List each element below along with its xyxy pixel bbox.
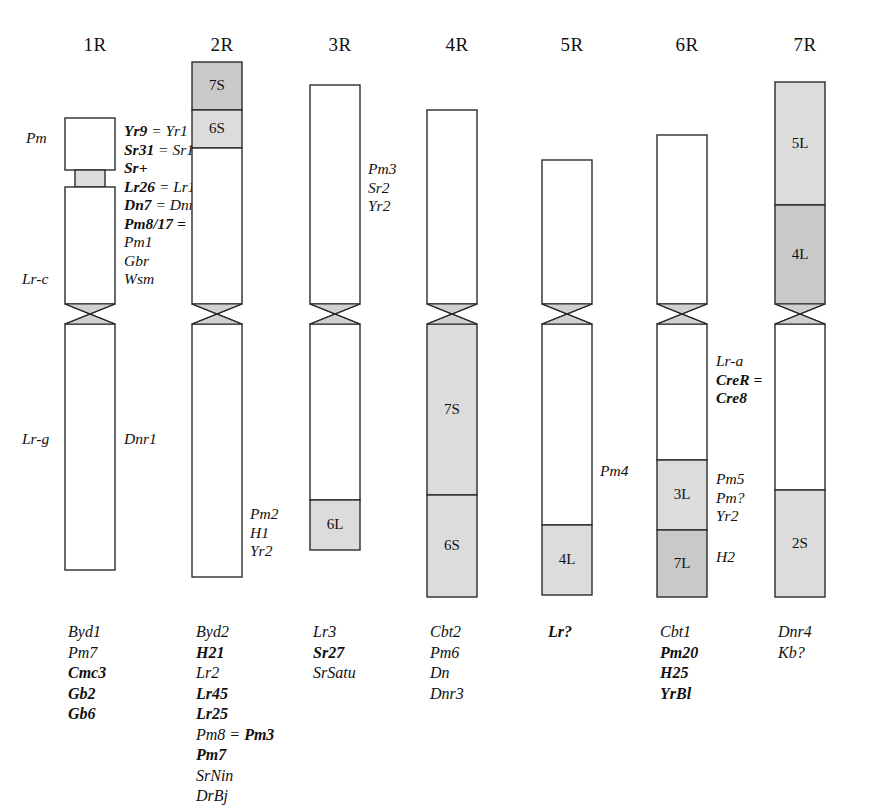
- band-label-5R-band-4L: 4L: [542, 551, 592, 568]
- bottom-gene-list-6R-line: Cbt1: [660, 622, 698, 643]
- gene-symbol: Dnr4: [778, 623, 812, 640]
- bottom-gene-list-1R-line: Pm7: [68, 643, 106, 664]
- bottom-gene-list-4R-line: Cbt2: [430, 622, 464, 643]
- gene-symbol: Cbt2: [430, 623, 461, 640]
- gene-symbol: H21: [196, 644, 224, 661]
- bottom-gene-list-4R: Cbt2Pm6DnDnr3: [430, 622, 464, 704]
- chromosome-segment-2R-long-arm: [192, 324, 242, 577]
- gene-symbol: Gb6: [68, 705, 96, 722]
- chromosome-segment-1R-long-arm: [65, 324, 115, 570]
- centromere-diagonal: [542, 304, 592, 324]
- bottom-gene-list-3R-line: Lr3: [313, 622, 356, 643]
- gene-symbol: Pm8/17: [124, 215, 173, 232]
- bottom-gene-list-6R-line: H25: [660, 663, 698, 684]
- gene-symbol: Dnr: [170, 196, 195, 213]
- centromere-upper-6R: [657, 304, 707, 314]
- gene-annotation-2R-4-line: Yr2: [250, 542, 278, 561]
- chromosome-segment-3R-short-arm: [310, 85, 360, 304]
- band-label-2R-band-6S: 6S: [192, 120, 242, 137]
- gene-annotation-1R-1: Yr9 = Yr1Sr31 = Sr1Sr+Lr26 = Lr1Dn7 = Dn…: [124, 122, 196, 289]
- band-label-6R-band-7L: 7L: [657, 555, 707, 572]
- chromosome-segment-6R-long-white: [657, 324, 707, 460]
- band-label-2R-band-7S: 7S: [192, 77, 242, 94]
- bottom-gene-list-7R-line: Kb?: [778, 643, 812, 664]
- chromosome-segment-2R-band-6S: [192, 110, 242, 148]
- gene-symbol: Pm20: [660, 644, 698, 661]
- centromere-diagonal: [65, 304, 115, 324]
- gene-symbol: Dn: [430, 664, 450, 681]
- chromosome-segment-1R-short-lower: [65, 187, 115, 304]
- band-label-7R-band-2S: 2S: [775, 535, 825, 552]
- band-label-3R-band-6L: 6L: [310, 516, 360, 533]
- chromosome-title-4R: 4R: [432, 34, 482, 56]
- gene-annotation-6R-3-line: H2: [716, 548, 735, 567]
- gene-symbol: Pm2: [250, 505, 278, 522]
- label-pm4: Pm4: [600, 462, 628, 480]
- gene-symbol: Pm7: [68, 644, 97, 661]
- chromosome-segment-1R-gray-band: [75, 170, 105, 187]
- gene-symbol: Sr+: [124, 159, 148, 176]
- centromere-upper-2R: [192, 304, 242, 314]
- gene-annotation-6R-2-line: Pm?: [716, 489, 744, 508]
- gene-symbol: Pm5: [716, 470, 744, 487]
- bottom-gene-list-1R: Byd1Pm7Cmc3Gb2Gb6: [68, 622, 106, 725]
- chromosome-ideogram-figure: 1RPmLr-cLr-gDnr1Yr9 = Yr1Sr31 = Sr1Sr+Lr…: [0, 0, 877, 811]
- gene-symbol: =: [173, 215, 186, 232]
- bottom-gene-list-2R-line: Lr25: [196, 704, 274, 725]
- gene-symbol: Sr31: [124, 141, 154, 158]
- bottom-gene-list-7R-line: Dnr4: [778, 622, 812, 643]
- centromere-diagonal: [775, 304, 825, 324]
- chromosome-segment-6R-band-7L: [657, 530, 707, 597]
- gene-annotation-2R-4-line: H1: [250, 524, 278, 543]
- centromere-diagonal: [192, 304, 242, 324]
- chromosome-segment-7R-long-white: [775, 324, 825, 490]
- centromere-diagonal: [65, 304, 115, 324]
- gene-symbol: Yr2: [250, 542, 272, 559]
- bottom-gene-list-3R-line: SrSatu: [313, 663, 356, 684]
- gene-symbol: YrBl: [660, 685, 691, 702]
- chromosome-segment-2R-short-white: [192, 148, 242, 304]
- gene-annotation-6R-2-line: Pm5: [716, 470, 744, 489]
- bottom-gene-list-4R-line: Dnr3: [430, 684, 464, 705]
- centromere-upper-1R: [65, 304, 115, 314]
- gene-annotation-1R-1-line: Yr9 = Yr1: [124, 122, 196, 141]
- gene-annotation-6R-3: H2: [716, 548, 735, 567]
- gene-annotation-3R-1-line: Yr2: [368, 197, 396, 216]
- centromere-lower-2R: [192, 314, 242, 324]
- gene-symbol: =: [147, 122, 165, 139]
- centromere-lower-5R: [542, 314, 592, 324]
- centromere-upper-4R: [427, 304, 477, 314]
- centromere-lower-1R: [65, 314, 115, 324]
- chromosome-title-7R: 7R: [780, 34, 830, 56]
- gene-symbol: H2: [716, 548, 735, 565]
- centromere-diagonal: [775, 304, 825, 324]
- chromosome-segment-3R-band-6L: [310, 500, 360, 550]
- chromosome-segment-4R-band-7S: [427, 324, 477, 495]
- chromosome-segment-7R-band-4L: [775, 205, 825, 304]
- gene-annotation-3R-1-line: Sr2: [368, 179, 396, 198]
- gene-symbol: =: [750, 371, 763, 388]
- chromosome-title-5R: 5R: [547, 34, 597, 56]
- band-label-4R-band-7S: 7S: [427, 401, 477, 418]
- gene-symbol: Dnr3: [430, 685, 464, 702]
- gene-symbol: H1: [250, 524, 269, 541]
- centromere-upper-5R: [542, 304, 592, 314]
- gene-symbol: SrNin: [196, 767, 233, 784]
- gene-symbol: Lr25: [196, 705, 228, 722]
- bottom-gene-list-2R-line: Lr45: [196, 684, 274, 705]
- chromosome-segment-5R-long-white: [542, 324, 592, 525]
- chromosome-segment-6R-band-3L: [657, 460, 707, 530]
- chromosome-segment-7R-band-2S: [775, 490, 825, 597]
- gene-symbol: Yr1: [165, 122, 187, 139]
- centromere-diagonal: [542, 304, 592, 324]
- gene-symbol: SrSatu: [313, 664, 356, 681]
- band-label-6R-band-3L: 3L: [657, 486, 707, 503]
- bottom-gene-list-3R-line: Sr27: [313, 643, 356, 664]
- centromere-upper-3R: [310, 304, 360, 314]
- gene-annotation-6R-1-line: Lr-a: [716, 352, 762, 371]
- bottom-gene-list-3R: Lr3Sr27SrSatu: [313, 622, 356, 684]
- gene-symbol: Pm?: [716, 489, 744, 506]
- gene-symbol: =: [154, 141, 172, 158]
- gene-annotation-6R-1-line: Cre8: [716, 389, 762, 408]
- gene-symbol: =: [225, 726, 244, 743]
